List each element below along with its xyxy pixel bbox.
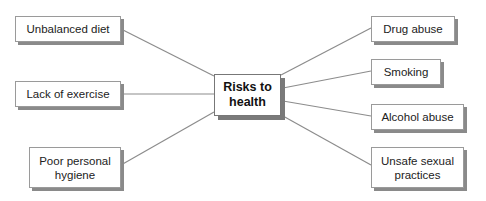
node-risks-to-health: Risks to health: [214, 74, 281, 116]
node-label: Lack of exercise: [26, 87, 109, 101]
node-label: Alcohol abuse: [381, 110, 453, 124]
connector-unsafe-sexual-practices: [283, 116, 371, 165]
node-label: Unbalanced diet: [26, 22, 109, 36]
node-poor-personal-hygiene: Poor personal hygiene: [29, 147, 121, 188]
center-label: Risks to health: [223, 80, 272, 110]
node-label: Drug abuse: [383, 22, 442, 36]
connector-alcohol-abuse: [283, 101, 371, 116]
node-label: Smoking: [384, 65, 429, 79]
node-unsafe-sexual-practices: Unsafe sexual practices: [371, 147, 464, 188]
node-label: Unsafe sexual practices: [381, 154, 454, 182]
node-smoking: Smoking: [371, 59, 441, 85]
node-lack-of-exercise: Lack of exercise: [15, 81, 121, 107]
node-label: Poor personal hygiene: [39, 154, 111, 182]
connector-smoking: [283, 71, 371, 88]
node-alcohol-abuse: Alcohol abuse: [371, 104, 464, 130]
connector-drug-abuse: [281, 28, 371, 75]
node-unbalanced-diet: Unbalanced diet: [15, 16, 121, 42]
connector-unbalanced-diet: [121, 29, 214, 76]
connector-poor-hygiene: [121, 112, 214, 165]
node-drug-abuse: Drug abuse: [371, 16, 455, 42]
